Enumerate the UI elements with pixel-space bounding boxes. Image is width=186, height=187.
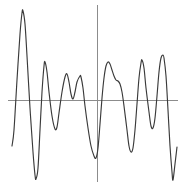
waveform-plot	[0, 0, 186, 187]
chart-container	[0, 0, 186, 187]
plot-background	[0, 0, 186, 187]
